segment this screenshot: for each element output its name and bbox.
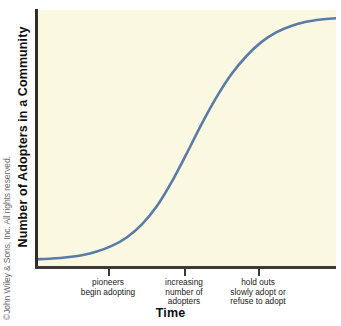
curve-svg [37,10,336,267]
x-axis-tick-2 [184,269,186,276]
plot-area [37,10,336,267]
x-axis-tick-label-1: pioneers begin adopting [64,278,152,297]
adoption-curve-figure: ©John Wiley & Sons, Inc. All rights rese… [0,0,341,326]
adoption-s-curve [37,18,336,259]
y-axis-title: Number of Adopters in a Community [14,6,32,268]
x-axis-tick-label-3: hold outs slowly adopt or refuse to adop… [213,278,303,307]
x-axis-tick-label-2: increasing number of adopters [145,278,223,307]
x-axis-tick-1 [108,269,110,276]
y-axis-line [35,9,38,268]
copyright-notice: ©John Wiley & Sons, Inc. All rights rese… [0,0,13,326]
x-axis-tick-3 [258,269,260,276]
x-axis-title: Time [0,306,341,320]
